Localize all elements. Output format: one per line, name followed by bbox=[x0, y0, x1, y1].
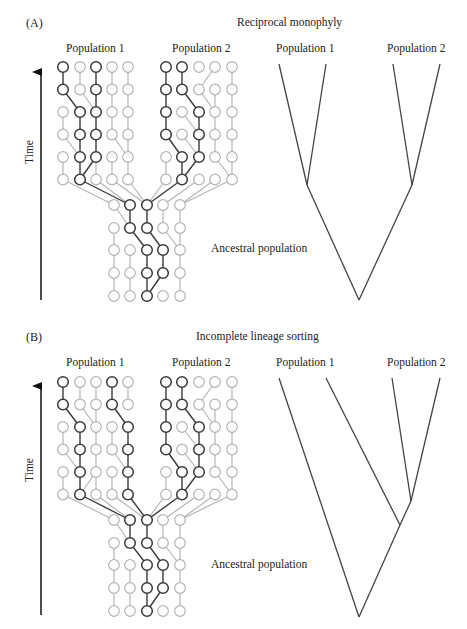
individual-node bbox=[161, 467, 172, 478]
individual-node bbox=[107, 152, 118, 163]
individual-node bbox=[158, 200, 169, 211]
sampled-individual-node bbox=[58, 84, 69, 95]
gene-tree-branch bbox=[392, 378, 411, 501]
panel-b-letter: (B) bbox=[26, 330, 42, 345]
sampled-individual-node bbox=[161, 422, 172, 433]
sampled-individual-node bbox=[142, 538, 153, 549]
individual-node bbox=[227, 444, 238, 455]
individual-node bbox=[109, 560, 120, 571]
sampled-individual-node bbox=[158, 245, 169, 256]
individual-node bbox=[194, 489, 205, 500]
individual-node bbox=[109, 538, 120, 549]
sampled-individual-node bbox=[161, 399, 172, 410]
sampled-individual-node bbox=[75, 129, 86, 140]
individual-node bbox=[210, 107, 221, 118]
individual-node bbox=[123, 377, 134, 388]
individual-node bbox=[175, 538, 186, 549]
sampled-individual-node bbox=[123, 489, 134, 500]
individual-node bbox=[123, 399, 134, 410]
individual-node bbox=[58, 489, 69, 500]
individual-node bbox=[109, 291, 120, 302]
individual-node bbox=[210, 399, 221, 410]
individual-node bbox=[75, 399, 86, 410]
sampled-individual-node bbox=[194, 129, 205, 140]
sampled-individual-node bbox=[177, 174, 188, 185]
sampled-individual-node bbox=[142, 268, 153, 279]
panel-a-pop2-label: Population 2 bbox=[172, 42, 230, 54]
sampled-individual-node bbox=[125, 223, 136, 234]
individual-node bbox=[210, 444, 221, 455]
sampled-individual-node bbox=[91, 107, 102, 118]
individual-node bbox=[210, 377, 221, 388]
individual-node bbox=[123, 62, 134, 73]
individual-node bbox=[125, 583, 136, 594]
individual-node bbox=[177, 444, 188, 455]
individual-node bbox=[158, 538, 169, 549]
individual-node bbox=[107, 129, 118, 140]
individual-node bbox=[123, 174, 134, 185]
sampled-individual-node bbox=[142, 583, 153, 594]
individual-node bbox=[58, 444, 69, 455]
individual-node bbox=[125, 291, 136, 302]
individual-node bbox=[75, 62, 86, 73]
sampled-individual-node bbox=[142, 560, 153, 571]
individual-node bbox=[175, 560, 186, 571]
individual-node bbox=[58, 152, 69, 163]
individual-node bbox=[123, 152, 134, 163]
sampled-individual-node bbox=[158, 560, 169, 571]
individual-node bbox=[125, 560, 136, 571]
sampled-individual-node bbox=[91, 84, 102, 95]
sampled-individual-node bbox=[161, 84, 172, 95]
sampled-individual-node bbox=[158, 583, 169, 594]
sampled-individual-node bbox=[177, 489, 188, 500]
sampled-individual-node bbox=[161, 377, 172, 388]
individual-node bbox=[125, 606, 136, 617]
individual-node bbox=[210, 467, 221, 478]
individual-node bbox=[91, 467, 102, 478]
sampled-individual-node bbox=[58, 399, 69, 410]
individual-node bbox=[109, 583, 120, 594]
sampled-individual-node bbox=[142, 606, 153, 617]
panel-a-time-label: Time bbox=[23, 140, 35, 164]
sampled-individual-node bbox=[75, 444, 86, 455]
individual-node bbox=[161, 152, 172, 163]
individual-node bbox=[227, 84, 238, 95]
sampled-individual-node bbox=[123, 444, 134, 455]
panel-b-time-label: Time bbox=[23, 458, 35, 482]
individual-node bbox=[107, 489, 118, 500]
sampled-individual-node bbox=[91, 62, 102, 73]
individual-node bbox=[123, 107, 134, 118]
individual-node bbox=[109, 245, 120, 256]
individual-node bbox=[58, 422, 69, 433]
panel-a-tree-pop1-label: Population 1 bbox=[276, 42, 334, 54]
individual-node bbox=[175, 291, 186, 302]
individual-node bbox=[58, 129, 69, 140]
individual-node bbox=[227, 467, 238, 478]
sampled-individual-node bbox=[142, 223, 153, 234]
gray-lineage-edge bbox=[180, 495, 232, 521]
individual-node bbox=[175, 245, 186, 256]
individual-node bbox=[158, 606, 169, 617]
gene-tree-branch bbox=[279, 378, 359, 617]
individual-node bbox=[158, 223, 169, 234]
gene-tree-branch bbox=[412, 64, 440, 185]
individual-node bbox=[227, 174, 238, 185]
sampled-individual-node bbox=[107, 399, 118, 410]
individual-node bbox=[210, 129, 221, 140]
gene-tree-branch bbox=[359, 185, 412, 300]
individual-node bbox=[194, 174, 205, 185]
sampled-individual-node bbox=[194, 444, 205, 455]
sampled-individual-node bbox=[91, 129, 102, 140]
sampled-individual-node bbox=[177, 152, 188, 163]
individual-node bbox=[210, 152, 221, 163]
individual-node bbox=[227, 422, 238, 433]
individual-node bbox=[91, 174, 102, 185]
individual-node bbox=[109, 223, 120, 234]
individual-node bbox=[107, 422, 118, 433]
sampled-individual-node bbox=[161, 129, 172, 140]
sampled-individual-node bbox=[194, 152, 205, 163]
individual-node bbox=[109, 515, 120, 526]
individual-node bbox=[109, 606, 120, 617]
sampled-individual-node bbox=[194, 107, 205, 118]
sampled-individual-node bbox=[75, 107, 86, 118]
